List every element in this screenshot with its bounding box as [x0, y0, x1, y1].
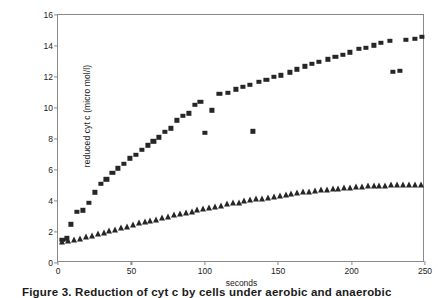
y-tick-label: 2 [13, 228, 58, 237]
y-tick-mark [54, 200, 58, 201]
data-point-triangle [418, 181, 424, 187]
y-tick-label: 14 [13, 42, 58, 51]
figure-caption: Figure 3. Reduction of cyt c by cells un… [22, 286, 422, 298]
data-point-square [163, 130, 168, 134]
data-point-square [371, 43, 376, 47]
data-point-square [378, 41, 383, 45]
data-point-square [98, 182, 103, 186]
data-point-square [279, 73, 284, 77]
y-tick-label: 16 [13, 11, 58, 20]
data-point-square [287, 70, 292, 74]
x-tick-mark [204, 261, 205, 265]
data-point-square [340, 52, 345, 56]
data-point-square [145, 143, 150, 147]
x-tick-label: 0 [56, 267, 61, 276]
data-point-square [233, 87, 238, 91]
data-point-square [251, 129, 256, 133]
y-tick-mark [54, 138, 58, 139]
data-point-square [157, 135, 162, 139]
x-tick-mark [351, 261, 352, 265]
data-point-square [412, 37, 417, 41]
data-point-square [110, 171, 115, 175]
data-point-square [317, 59, 322, 63]
data-point-square [240, 85, 245, 89]
data-point-square [127, 156, 132, 160]
data-point-square [180, 114, 185, 118]
y-tick-label: 12 [13, 73, 58, 82]
x-tick-label: 200 [345, 267, 359, 276]
y-tick-mark [54, 107, 58, 108]
data-point-square [168, 126, 173, 130]
data-point-square [69, 222, 74, 226]
data-point-square [309, 62, 314, 66]
data-point-square [364, 45, 369, 49]
data-point-square [74, 210, 79, 214]
data-point-square [133, 152, 138, 156]
y-tick-mark [54, 169, 58, 170]
data-point-square [210, 108, 215, 112]
data-point-square [302, 64, 307, 68]
y-axis-label: reduced cyt c (micro mol/l) [82, 0, 92, 241]
x-tick-label: 100 [198, 267, 212, 276]
data-point-square [86, 200, 91, 204]
data-point-square [139, 148, 144, 152]
data-point-square [248, 83, 253, 87]
data-point-square [403, 38, 408, 42]
x-tick-label: 150 [271, 267, 285, 276]
data-point-square [217, 92, 222, 96]
y-tick-label: 8 [13, 135, 58, 144]
data-point-square [257, 79, 262, 83]
data-point-square [202, 131, 207, 135]
data-point-square [356, 47, 361, 51]
data-point-square [151, 139, 156, 143]
data-point-square [80, 208, 85, 212]
data-point-square [104, 177, 109, 181]
data-point-square [264, 78, 269, 82]
data-point-square [348, 50, 353, 54]
data-point-square [192, 103, 197, 107]
y-tick-label: 10 [13, 104, 58, 113]
y-tick-mark [54, 76, 58, 77]
x-tick-mark [278, 261, 279, 265]
y-tick-label: 0 [13, 259, 58, 268]
y-tick-mark [54, 45, 58, 46]
data-point-square [397, 69, 402, 73]
data-point-square [419, 34, 424, 38]
x-tick-mark [424, 261, 425, 265]
data-point-square [295, 67, 300, 71]
data-point-square [387, 38, 392, 42]
y-tick-label: 6 [13, 166, 58, 175]
data-point-square [271, 75, 276, 79]
y-tick-label: 4 [13, 197, 58, 206]
y-tick-mark [54, 14, 58, 15]
data-point-square [116, 166, 121, 170]
x-tick-label: 50 [127, 267, 136, 276]
data-point-square [226, 90, 231, 94]
x-tick-mark [131, 261, 132, 265]
data-point-square [174, 118, 179, 122]
data-point-square [333, 55, 338, 59]
data-point-square [121, 162, 126, 166]
data-point-square [186, 111, 191, 115]
plot-area: reduced cyt c (micro mol/l) 024681012141… [57, 14, 424, 262]
x-tick-mark [57, 261, 58, 265]
data-point-square [198, 100, 203, 104]
x-tick-label: 250 [418, 267, 432, 276]
data-point-square [390, 69, 395, 73]
data-point-square [92, 190, 97, 194]
data-point-square [326, 57, 331, 61]
y-tick-mark [54, 231, 58, 232]
